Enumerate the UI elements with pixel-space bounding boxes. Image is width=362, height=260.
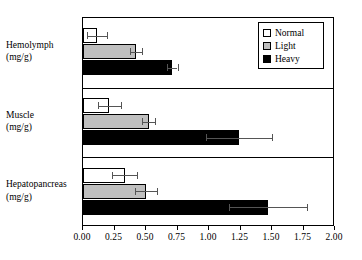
error-bar-cap [130, 48, 131, 55]
error-bar-line [112, 175, 137, 176]
legend-swatch-heavy-icon [263, 55, 271, 63]
y-axis-label-name: Hepatopancreas [6, 179, 67, 189]
error-bar-line [135, 191, 158, 192]
legend-item-light: Light [263, 39, 319, 52]
error-bar-cap [155, 118, 156, 125]
error-bar-line [167, 68, 177, 69]
error-bar-cap [87, 32, 88, 39]
error-bar-line [130, 52, 143, 53]
legend-label-normal: Normal [275, 27, 304, 39]
legend-swatch-normal-icon [263, 29, 271, 37]
x-axis-tick [114, 226, 115, 230]
legend-label-light: Light [275, 40, 296, 52]
error-bar-cap [121, 102, 122, 109]
error-bar-cap [157, 188, 158, 195]
error-bar-cap [112, 172, 113, 179]
y-axis-label-muscle: Muscle(mg/g) [0, 109, 80, 134]
error-bar-cap [142, 48, 143, 55]
x-axis-tick-label: 2.00 [314, 231, 354, 243]
error-bar-cap [206, 134, 207, 141]
error-bar-cap [178, 64, 179, 71]
legend-item-heavy: Heavy [263, 52, 319, 65]
error-bar-cap [137, 172, 138, 179]
error-bar-cap [107, 32, 108, 39]
y-axis-label-hemolymph: Hemolymph(mg/g) [0, 39, 80, 64]
error-bar-line [142, 122, 155, 123]
error-bar-line [229, 207, 307, 208]
chart-legend: Normal Light Heavy [258, 22, 324, 69]
x-axis-tick [145, 226, 146, 230]
error-bar-cap [167, 64, 168, 71]
error-bar-cap [135, 188, 136, 195]
error-bar-cap [142, 118, 143, 125]
legend-label-heavy: Heavy [275, 53, 300, 65]
error-bar-cap [229, 204, 230, 211]
legend-swatch-light-icon [263, 42, 271, 50]
y-axis-label-unit: (mg/g) [6, 51, 80, 64]
bar-light-hemolymph [83, 44, 136, 59]
x-axis-tick [271, 226, 272, 230]
error-bar-line [87, 36, 107, 37]
error-bar-cap [307, 204, 308, 211]
legend-item-normal: Normal [263, 26, 319, 39]
error-bar-cap [98, 102, 99, 109]
y-axis-label-hepatopancreas: Hepatopancreas(mg/g) [0, 178, 80, 203]
y-axis-label-unit: (mg/g) [6, 191, 80, 204]
y-axis-label-name: Hemolymph [6, 40, 54, 50]
y-axis-label-unit: (mg/g) [6, 121, 80, 134]
y-axis-label-name: Muscle [6, 110, 34, 120]
chart-figure: 0.000.250.500.751.001.251.501.752.00 Hem… [0, 0, 362, 260]
x-axis-tick [82, 226, 83, 230]
category-separator [83, 157, 333, 158]
bar-heavy-hemolymph [83, 60, 172, 75]
x-axis-tick [208, 226, 209, 230]
x-axis-tick [240, 226, 241, 230]
x-axis-tick [334, 226, 335, 230]
error-bar-cap [272, 134, 273, 141]
error-bar-line [98, 106, 121, 107]
bar-light-muscle [83, 114, 149, 129]
error-bar-line [206, 138, 272, 139]
x-axis-tick [303, 226, 304, 230]
category-separator [83, 88, 333, 89]
x-axis-tick [177, 226, 178, 230]
